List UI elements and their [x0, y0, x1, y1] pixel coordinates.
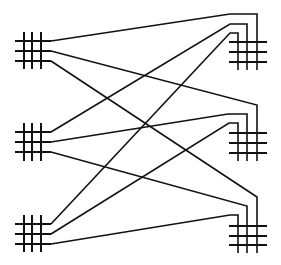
right-node-2 — [229, 133, 267, 153]
network-diagram — [0, 0, 281, 265]
connection-lines — [51, 14, 257, 253]
link-l2-r2 — [51, 114, 247, 161]
right-node-1 — [229, 42, 267, 62]
link-l1-r2 — [51, 51, 257, 161]
link-l3-r3 — [51, 215, 238, 253]
left-node-1 — [15, 32, 51, 69]
link-l1-r3 — [51, 61, 257, 253]
left-node-2 — [15, 123, 51, 161]
right-node-3 — [229, 226, 267, 245]
link-l1-r1 — [51, 14, 257, 70]
link-l2-r3 — [51, 152, 247, 253]
left-node-3 — [15, 215, 51, 252]
